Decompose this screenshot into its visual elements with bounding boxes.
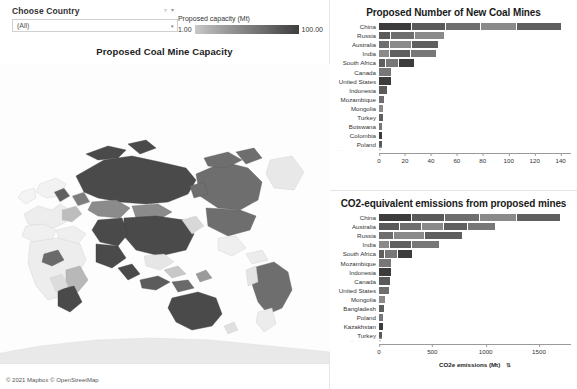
bar-row[interactable]: Mongolia <box>332 295 571 304</box>
x-tick: 140 <box>555 154 565 164</box>
bar[interactable] <box>379 68 392 75</box>
bar-row[interactable]: Mongolia <box>332 104 571 113</box>
bar-segment <box>379 232 394 239</box>
bar-category-label: China <box>332 23 379 30</box>
x-tick: 1000 <box>479 345 493 355</box>
bar-segment <box>379 132 383 139</box>
bar-row[interactable]: United States <box>332 77 571 86</box>
bar[interactable] <box>379 296 386 303</box>
bar-track <box>379 113 571 122</box>
bar-row[interactable]: Mozambique <box>332 258 571 267</box>
bar-row[interactable]: South Africa <box>332 249 571 258</box>
bar-segment <box>379 287 390 294</box>
bar-row[interactable]: Canada <box>332 67 571 76</box>
country-filter: Choose Country (All) ▾ <box>6 6 178 44</box>
bar-segment <box>379 23 412 30</box>
bar[interactable] <box>379 141 383 148</box>
bar-row[interactable]: Russia <box>332 231 571 240</box>
bar-row[interactable]: Poland <box>332 140 571 149</box>
bar-category-label: Mongolia <box>332 105 379 112</box>
bar[interactable] <box>379 96 385 103</box>
bar-track <box>379 22 571 31</box>
bar-row[interactable]: Indonesia <box>332 268 571 277</box>
bar[interactable] <box>379 314 384 321</box>
bar-row[interactable]: Colombia <box>332 131 571 140</box>
bar-row[interactable]: Australia <box>332 222 571 231</box>
x-axis: 050010001500 <box>379 344 571 358</box>
bar[interactable] <box>379 277 391 284</box>
bar-row[interactable]: Turkey <box>332 113 571 122</box>
bar-track <box>379 49 571 58</box>
country-filter-value: (All) <box>17 22 29 29</box>
bar[interactable] <box>379 241 440 248</box>
bar-track <box>379 40 571 49</box>
bar[interactable] <box>379 259 392 266</box>
bar[interactable] <box>379 77 392 84</box>
bar-category-label: Poland <box>332 314 379 321</box>
bar-segment <box>390 41 412 48</box>
bar-category-label: Mozambique <box>332 96 379 103</box>
bar-row[interactable]: Russia <box>332 31 571 40</box>
bar-track <box>379 213 571 222</box>
bar-track <box>379 331 571 340</box>
world-map[interactable] <box>0 64 330 364</box>
legend-max-value: 100.00 <box>302 26 323 33</box>
bar-segment <box>379 68 392 75</box>
bar-segment <box>379 241 390 248</box>
bar[interactable] <box>379 132 383 139</box>
bar[interactable] <box>379 223 496 230</box>
bar-segment <box>379 77 392 84</box>
bar[interactable] <box>379 41 439 48</box>
bar[interactable] <box>379 214 561 221</box>
filter-icon[interactable]: ▿ <box>164 6 167 13</box>
bar-segment <box>379 259 392 266</box>
country-filter-select[interactable]: (All) ▾ <box>12 19 178 32</box>
bar[interactable] <box>379 86 388 93</box>
bar[interactable] <box>379 305 385 312</box>
bar-row[interactable]: India <box>332 49 571 58</box>
legend-toolbar: ▿ ▾ <box>164 6 174 13</box>
bar[interactable] <box>379 323 384 330</box>
bar-segment <box>379 305 385 312</box>
bar[interactable] <box>379 59 415 66</box>
bar[interactable] <box>379 332 383 339</box>
bar[interactable] <box>379 114 384 121</box>
bar-segment <box>379 123 383 130</box>
bar-row[interactable]: Australia <box>332 40 571 49</box>
bar-category-label: China <box>332 214 379 221</box>
bar[interactable] <box>379 268 392 275</box>
bar-row[interactable]: Canada <box>332 277 571 286</box>
bar[interactable] <box>379 50 437 57</box>
bar-row[interactable]: Kazakhstan <box>332 322 571 331</box>
bar-row[interactable]: Indonesia <box>332 86 571 95</box>
dashboard: Choose Country (All) ▾ ▿ ▾ Proposed capa… <box>0 0 577 389</box>
bar[interactable] <box>379 32 445 39</box>
bar[interactable] <box>379 23 562 30</box>
sort-icon[interactable]: ⇅ <box>506 362 511 368</box>
bar-rows: ChinaRussiaAustraliaIndiaSouth AfricaCan… <box>332 22 571 153</box>
bar-row[interactable]: Mozambique <box>332 95 571 104</box>
bar-segment <box>412 41 439 48</box>
bar-segment <box>379 332 383 339</box>
bar[interactable] <box>379 105 384 112</box>
bar[interactable] <box>379 287 390 294</box>
bar-row[interactable]: United States <box>332 286 571 295</box>
bar[interactable] <box>379 250 413 257</box>
bar-row[interactable]: South Africa <box>332 58 571 67</box>
bar[interactable] <box>379 232 463 239</box>
bar-row[interactable]: India <box>332 240 571 249</box>
bar-track <box>379 268 571 277</box>
bar-row[interactable]: Poland <box>332 313 571 322</box>
chevron-down-icon[interactable]: ▾ <box>171 6 174 13</box>
bar-row[interactable]: China <box>332 213 571 222</box>
bar-segment <box>445 214 480 221</box>
x-tick: 80 <box>479 154 486 164</box>
bar-row[interactable]: Bangladesh <box>332 304 571 313</box>
bar-category-label: Bangladesh <box>332 305 379 312</box>
bar-track <box>379 295 571 304</box>
bar-row[interactable]: China <box>332 22 571 31</box>
bar-row[interactable]: Botswana <box>332 122 571 131</box>
bar[interactable] <box>379 123 383 130</box>
bar-row[interactable]: Turkey <box>332 331 571 340</box>
map-canvas[interactable] <box>0 64 330 364</box>
